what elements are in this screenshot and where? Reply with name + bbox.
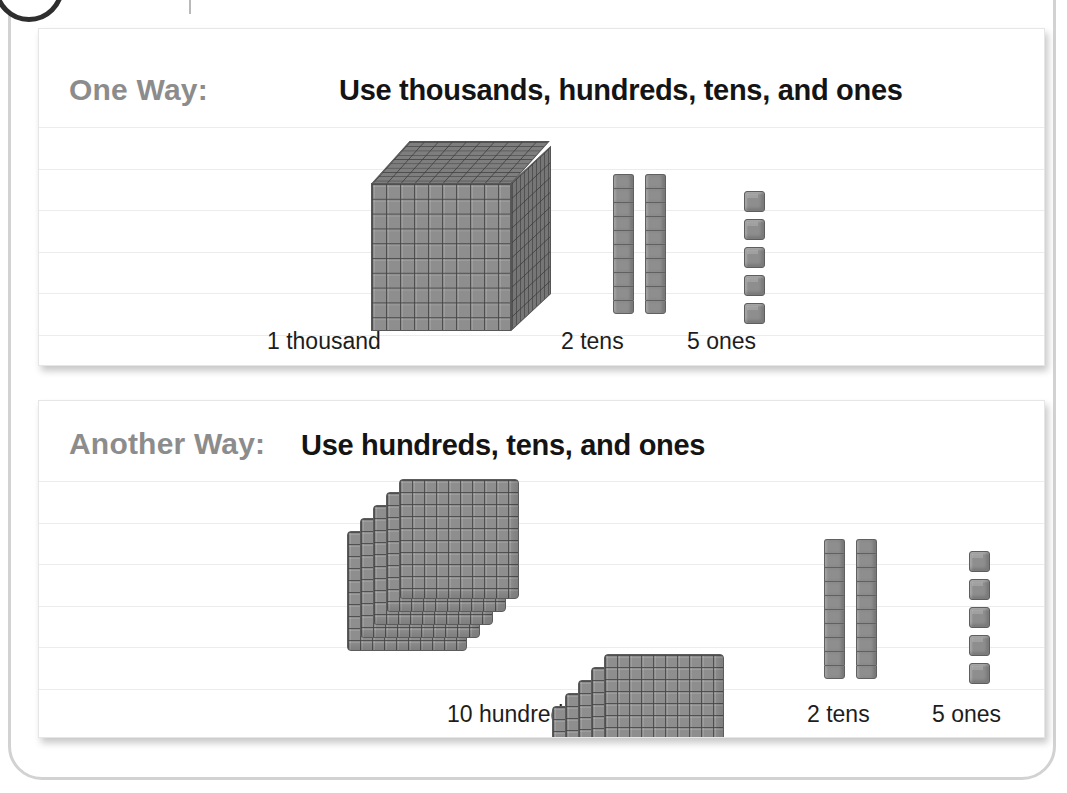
rod-unit bbox=[613, 216, 634, 230]
one-cube bbox=[744, 219, 765, 240]
another-way-description: Use hundreds, tens, and ones bbox=[301, 429, 705, 462]
rod-unit bbox=[613, 202, 634, 216]
hundreds-flats-stack-first-five bbox=[347, 479, 522, 654]
hundreds-flats-stack-second-five bbox=[552, 654, 727, 738]
one-way-label: One Way: bbox=[69, 73, 208, 107]
rod-unit bbox=[824, 651, 845, 665]
rod-unit bbox=[856, 553, 877, 567]
rod-unit bbox=[645, 174, 666, 188]
rod-unit bbox=[856, 609, 877, 623]
rod-unit bbox=[856, 539, 877, 553]
rule-line bbox=[39, 127, 1044, 128]
tens-rods-group-one bbox=[613, 174, 666, 314]
panel-another-way: Another Way: Use hundreds, tens, and one… bbox=[38, 400, 1045, 738]
rod-unit bbox=[856, 595, 877, 609]
rule-line bbox=[39, 481, 1044, 482]
one-cube bbox=[744, 191, 765, 212]
rule-line bbox=[39, 523, 1044, 524]
rod-unit bbox=[856, 623, 877, 637]
caption-ones-two: 5 ones bbox=[932, 701, 1001, 728]
rule-line bbox=[39, 606, 1044, 607]
rule-line bbox=[39, 335, 1044, 336]
rod-unit bbox=[645, 188, 666, 202]
tens-rods-group-two bbox=[824, 539, 877, 679]
ten-rod bbox=[613, 174, 634, 314]
thousand-cube-front-face bbox=[371, 183, 511, 331]
thousand-cube-block bbox=[371, 141, 551, 331]
rod-unit bbox=[645, 202, 666, 216]
rule-line bbox=[39, 689, 1044, 690]
rod-unit bbox=[824, 637, 845, 651]
one-cube bbox=[744, 303, 765, 324]
one-cube bbox=[969, 551, 990, 572]
rod-unit bbox=[856, 567, 877, 581]
rod-unit bbox=[824, 623, 845, 637]
ten-rod bbox=[856, 539, 877, 679]
rod-unit bbox=[645, 258, 666, 272]
rod-unit bbox=[824, 609, 845, 623]
hundred-flat bbox=[604, 654, 724, 738]
one-cube bbox=[969, 663, 990, 684]
rod-unit bbox=[613, 272, 634, 286]
rod-unit bbox=[613, 244, 634, 258]
rod-unit bbox=[645, 272, 666, 286]
rod-unit bbox=[613, 286, 634, 300]
caption-thousands-one: 1 thousand bbox=[267, 328, 381, 355]
rod-unit bbox=[645, 286, 666, 300]
hundred-flat bbox=[399, 479, 519, 599]
rod-unit bbox=[856, 665, 877, 679]
one-cube bbox=[744, 275, 765, 296]
rod-unit bbox=[824, 581, 845, 595]
one-cube bbox=[969, 579, 990, 600]
ones-cubes-group-two bbox=[969, 551, 990, 684]
rod-unit bbox=[824, 567, 845, 581]
rod-unit bbox=[645, 216, 666, 230]
rod-unit bbox=[645, 230, 666, 244]
panel-one-way: One Way: Use thousands, hundreds, tens, … bbox=[38, 28, 1045, 366]
caption-tens-one: 2 tens bbox=[561, 328, 624, 355]
caption-ones-one: 5 ones bbox=[687, 328, 756, 355]
one-cube bbox=[969, 635, 990, 656]
rod-unit bbox=[856, 637, 877, 651]
rule-line bbox=[39, 564, 1044, 565]
one-way-description: Use thousands, hundreds, tens, and ones bbox=[339, 74, 903, 107]
rod-unit bbox=[645, 244, 666, 258]
rod-unit bbox=[856, 581, 877, 595]
ten-rod bbox=[645, 174, 666, 314]
rod-unit bbox=[613, 258, 634, 272]
rod-unit bbox=[824, 665, 845, 679]
one-cube bbox=[744, 247, 765, 268]
rod-unit bbox=[824, 595, 845, 609]
ones-cubes-group-one bbox=[744, 191, 765, 324]
rod-unit bbox=[613, 188, 634, 202]
top-tick-mark bbox=[189, 0, 191, 14]
rod-unit bbox=[824, 539, 845, 553]
rod-unit bbox=[645, 300, 666, 314]
one-cube bbox=[969, 607, 990, 628]
rod-unit bbox=[613, 300, 634, 314]
another-way-label: Another Way: bbox=[69, 427, 265, 461]
rule-line bbox=[39, 647, 1044, 648]
caption-tens-two: 2 tens bbox=[807, 701, 870, 728]
rod-unit bbox=[613, 230, 634, 244]
rod-unit bbox=[824, 553, 845, 567]
ten-rod bbox=[824, 539, 845, 679]
rod-unit bbox=[856, 651, 877, 665]
rod-unit bbox=[613, 174, 634, 188]
